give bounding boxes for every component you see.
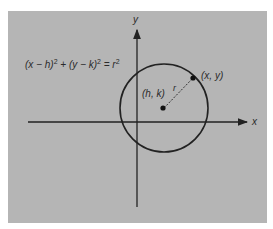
center-point [160,105,165,110]
point-label: (x, y) [201,71,223,81]
y-axis-label: y [133,15,138,25]
radius-line [164,78,193,108]
circle-point [190,75,195,80]
center-label: (h, k) [142,89,165,99]
radius-label: r [173,84,176,93]
equation-label: (x − h)2 + (y − k)2 = r2 [25,58,120,70]
x-axis-label: x [252,117,257,127]
circle-diagram [0,0,273,229]
